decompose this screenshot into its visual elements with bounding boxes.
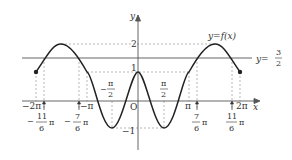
- x-tick-neg-11-6-den: 6: [39, 124, 44, 133]
- x-tick-11-6-pi: π: [239, 118, 244, 127]
- x-tick-neg-2pi: −2π: [22, 101, 41, 111]
- endpoint-right: [238, 70, 242, 74]
- x-axis-label: x: [253, 102, 258, 112]
- line-label-den: 2: [276, 59, 281, 68]
- endpoint-left: [34, 70, 38, 74]
- x-tick-7-6-pi: π: [202, 118, 207, 127]
- x-tick-2pi: 2π: [236, 101, 248, 111]
- x-tick-neg-7-6-den: 6: [75, 124, 80, 133]
- curve-label: y=f(x): [207, 31, 237, 41]
- y-axis-label: y: [129, 11, 136, 21]
- x-tick-half-pi-num: π: [161, 79, 166, 88]
- y-tick-1: 1: [131, 63, 137, 73]
- x-tick-neg-11-6-num: 11: [37, 112, 47, 121]
- x-tick-11-6-den: 6: [229, 124, 234, 133]
- x-tick-neg-11-6-sign: −: [27, 117, 34, 126]
- x-tick-neg-half-pi-num: π: [108, 79, 113, 88]
- line-label-prefix: y=: [255, 54, 269, 64]
- origin-label: O: [130, 102, 137, 112]
- y-axis-arrow-icon: [136, 15, 141, 21]
- x-tick-neg-pi: −π: [80, 101, 94, 111]
- x-tick-neg-7-6-sign: −: [64, 117, 71, 126]
- x-tick-neg-half-pi-den: 2: [108, 90, 113, 99]
- y-tick-2: 2: [131, 39, 137, 49]
- x-tick-11-6-num: 11: [227, 112, 237, 121]
- x-tick-neg-7-6-pi: π: [83, 118, 88, 127]
- line-label-num: 3: [276, 48, 281, 57]
- x-tick-7-6-den: 6: [194, 124, 199, 133]
- function-graph: y=f(x) y= 3 2 y x O 2 1 −1 −2π −π π 2π −…: [0, 0, 292, 160]
- x-tick-neg-11-6-pi: π: [49, 118, 54, 127]
- x-tick-neg-half-pi-sign: −: [100, 85, 107, 94]
- x-tick-neg-7-6-num: 7: [75, 112, 80, 121]
- x-tick-pi: π: [185, 101, 191, 111]
- y-tick-neg-1: −1: [122, 126, 135, 136]
- x-tick-half-pi-den: 2: [161, 90, 166, 99]
- x-tick-7-6-num: 7: [194, 112, 199, 121]
